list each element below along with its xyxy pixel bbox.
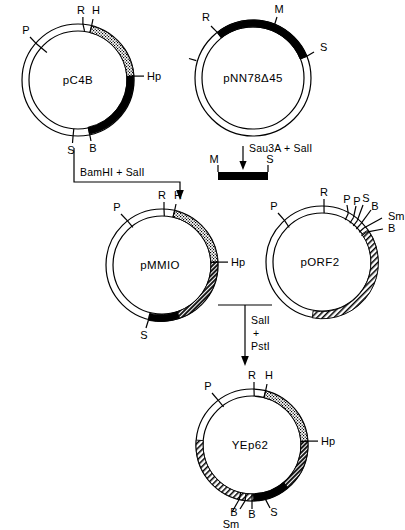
YEp62-site-B1: B (248, 508, 255, 520)
pORF2-site-P2: P (343, 193, 350, 205)
plus-sign: + (253, 327, 259, 339)
pC4B-site-Hp: Hp (147, 70, 161, 82)
sau3a-sali-label: Sau3A + SalI (249, 142, 312, 154)
pNN78D45-site-M: M (274, 3, 283, 15)
fragment-label-S: S (266, 153, 273, 165)
pORF2-site-B1: B (371, 200, 378, 212)
pC4B-site-B: B (89, 142, 96, 154)
leader-S (73, 136, 74, 143)
pC4B-site-P: P (22, 24, 29, 36)
YEp62-site-B2: B (230, 506, 237, 518)
pC4B-site-R: R (77, 4, 85, 16)
pC4B-name-label: pC4B (63, 74, 93, 86)
pC4B-site-H: H (92, 4, 100, 16)
YEp62-site-H: H (265, 369, 273, 381)
pORF2-site-P3: P (353, 195, 360, 207)
YEp62-site-P: P (204, 380, 211, 392)
pNN78D45-name-label: pNN78Δ45 (223, 72, 282, 84)
YEp62-site-Hp: Hp (321, 435, 335, 447)
bamhi-sali-label: BamHI + SalI (80, 166, 145, 178)
pMMIO-site-S: S (140, 329, 147, 341)
pNN78D45-site-S: S (320, 41, 327, 53)
sali-label: SalI (251, 314, 270, 326)
pORF2-site-P-left: P (270, 200, 277, 212)
fragment-bar (218, 172, 268, 180)
psti-label: PstI (251, 340, 270, 352)
tick-B2 (245, 494, 246, 501)
pNN78D45-site-R: R (202, 11, 210, 23)
pMMIO-name-label: pMMIO (140, 259, 180, 271)
YEp62-site-S: S (270, 506, 277, 518)
pORF2-site-Sm: Sm (388, 210, 405, 222)
pORF2-name-label: pORF2 (300, 256, 339, 268)
tick-S (73, 129, 74, 136)
pORF2-site-R: R (320, 186, 328, 198)
YEp62-name-label: YEp62 (232, 439, 269, 451)
plasmid-construction-diagram: pC4B P R H Hp S B pNN78Δ45 R M S BamHI +… (0, 0, 405, 530)
pMMIO-site-P: P (113, 201, 120, 213)
pORF2-site-B2: B (388, 222, 395, 234)
YEp62-site-R: R (248, 369, 256, 381)
pMMIO-site-H: H (174, 189, 182, 201)
YEp62-site-Sm: Sm (223, 518, 240, 530)
pMMIO-site-R: R (158, 189, 166, 201)
fragment-label-M: M (209, 153, 218, 165)
pMMIO-site-Hp: Hp (231, 256, 245, 268)
pORF2-site-S: S (362, 192, 369, 204)
